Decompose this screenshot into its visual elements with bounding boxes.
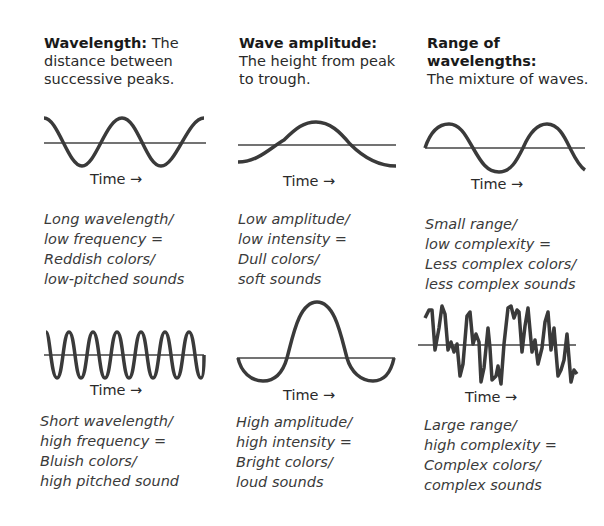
arrow-right-icon: → (505, 389, 517, 405)
short-wavelength-description: Short wavelength/ high frequency = Bluis… (40, 411, 179, 491)
large-range-wave (418, 304, 588, 386)
long-wavelength-description: Long wavelength/ low frequency = Reddish… (44, 209, 184, 289)
low-amplitude-description: Low amplitude/ low intensity = Dull colo… (238, 209, 350, 289)
wavelength-header: Wavelength: The distance between success… (44, 34, 214, 88)
range-title: Range of wavelengths: (427, 35, 537, 69)
range-definition: The mixture of waves. (427, 71, 588, 87)
amplitude-definition: The height from peak to trough. (239, 53, 395, 87)
arrow-right-icon: → (130, 171, 142, 187)
arrow-right-icon: → (323, 173, 335, 189)
long-wavelength-wave (44, 112, 206, 174)
small-range-wave (425, 120, 585, 176)
low-amplitude-wave (238, 118, 398, 170)
short-wavelength-wave (44, 330, 206, 382)
small-range-description: Small range/ low complexity = Less compl… (425, 214, 576, 294)
time-axis-label: Time → (90, 382, 142, 398)
time-axis-label: Time → (283, 173, 335, 189)
arrow-right-icon: → (130, 382, 142, 398)
high-amplitude-description: High amplitude/ high intensity = Bright … (236, 412, 352, 492)
high-amplitude-wave (237, 300, 397, 384)
arrow-right-icon: → (323, 387, 335, 403)
amplitude-header: Wave amplitude: The height from peak to … (239, 34, 404, 88)
arrow-right-icon: → (511, 176, 523, 192)
wavelength-title: Wavelength: (44, 35, 147, 51)
time-axis-label: Time → (90, 171, 142, 187)
time-axis-label: Time → (471, 176, 523, 192)
large-range-description: Large range/ high complexity = Complex c… (424, 415, 557, 495)
time-axis-label: Time → (465, 389, 517, 405)
amplitude-title: Wave amplitude: (239, 35, 377, 51)
time-axis-label: Time → (283, 387, 335, 403)
range-header: Range of wavelengths:The mixture of wave… (427, 34, 604, 88)
